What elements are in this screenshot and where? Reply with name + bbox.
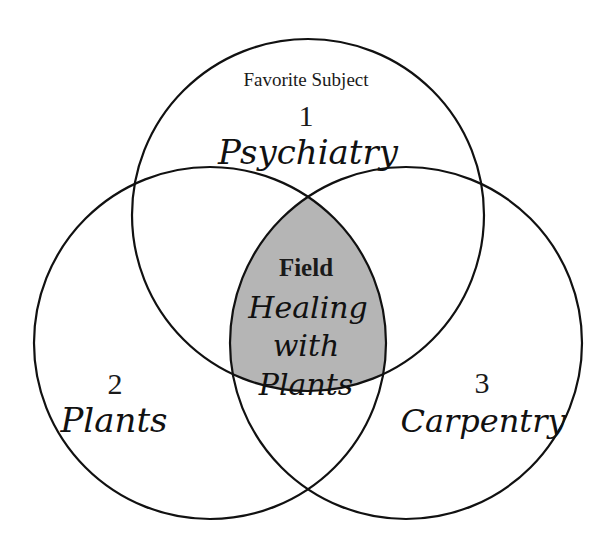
circle-1-number: 1 (299, 99, 314, 132)
intersection-line-3: Plants (258, 367, 353, 402)
header-label: Favorite Subject (243, 69, 369, 90)
intersection-line-2: with (273, 328, 340, 363)
circle-2-number: 2 (108, 367, 123, 400)
circle-3-label: Carpentry (400, 402, 566, 440)
circle-3-number: 3 (475, 366, 490, 399)
intersection-title: Field (279, 254, 333, 281)
venn-diagram: Favorite Subject 1 Psychiatry 2 Plants 3… (0, 0, 611, 549)
circle-2-label: Plants (59, 400, 167, 440)
circle-1-label: Psychiatry (217, 132, 399, 172)
intersection-line-1: Healing (247, 290, 368, 325)
